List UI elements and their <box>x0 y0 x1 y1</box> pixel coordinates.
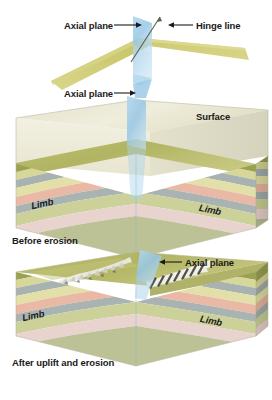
caption-after-erosion: After uplift and erosion <box>12 358 114 368</box>
label-axial-plane-bottom: Axial plane <box>185 258 234 268</box>
axial-plane-sheet-middle <box>127 96 146 150</box>
block-side-shade-after <box>256 262 268 336</box>
label-axial-plane-top: Axial plane <box>64 21 113 31</box>
folded-surface-left-underside <box>51 38 140 85</box>
label-axial-plane-middle: Axial plane <box>64 89 113 99</box>
leader-axial-plane-middle <box>114 90 136 96</box>
axial-plane-sheet-middle-lower <box>127 145 146 200</box>
leader-hinge-line <box>168 22 193 28</box>
caption-before-erosion: Before erosion <box>12 236 78 246</box>
label-hinge-line: Hinge line <box>196 21 240 31</box>
label-surface: Surface <box>196 112 230 122</box>
block-side-shade-before <box>256 156 268 228</box>
